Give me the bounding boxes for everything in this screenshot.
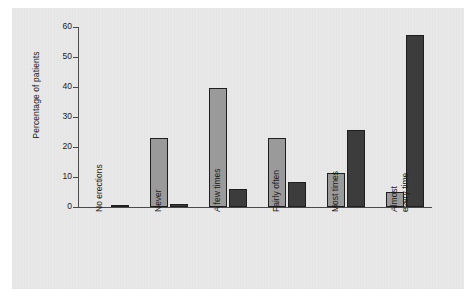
y-axis-tick bbox=[73, 147, 78, 148]
y-axis-tick-label-wrap: 10 bbox=[44, 177, 72, 178]
y-axis-line bbox=[78, 27, 79, 208]
bar-series-dark-1 bbox=[170, 204, 188, 207]
x-axis-label-0: No erections bbox=[95, 164, 105, 212]
x-axis-line bbox=[78, 207, 432, 208]
y-axis-tick bbox=[73, 87, 78, 88]
x-axis-label-5-line0: Almost bbox=[390, 186, 400, 212]
y-axis-tick-label: 40 bbox=[48, 82, 72, 91]
y-axis-tick-label: 10 bbox=[48, 172, 72, 181]
y-axis-title: Percentage of patients bbox=[31, 35, 41, 155]
y-axis-tick-label-wrap: 20 bbox=[44, 147, 72, 148]
y-axis-tick bbox=[73, 207, 78, 208]
y-axis-tick-label-wrap: 60 bbox=[44, 27, 72, 28]
x-axis-label-3: Fairly often bbox=[272, 170, 282, 212]
bar-series-dark-4 bbox=[347, 130, 365, 207]
y-axis-tick-label-wrap: 30 bbox=[44, 117, 72, 118]
y-axis-tick bbox=[73, 27, 78, 28]
bar-series-dark-2 bbox=[229, 189, 247, 207]
bar-series-dark-3 bbox=[288, 182, 306, 207]
y-axis-tick-label-wrap: 0 bbox=[44, 207, 72, 208]
y-axis-tick bbox=[73, 177, 78, 178]
y-axis-tick-label: 20 bbox=[48, 142, 72, 151]
y-axis-tick bbox=[73, 117, 78, 118]
y-axis-tick bbox=[73, 57, 78, 58]
y-axis-tick-label: 50 bbox=[48, 52, 72, 61]
x-axis-label-1: Never bbox=[154, 189, 164, 212]
x-axis-label-4: Most times bbox=[331, 171, 341, 212]
y-axis-tick-label: 30 bbox=[48, 112, 72, 121]
y-axis-tick-label: 0 bbox=[48, 202, 72, 211]
y-axis-tick-label: 60 bbox=[48, 22, 72, 31]
y-axis-tick-label-wrap: 50 bbox=[44, 57, 72, 58]
x-axis-label-2: A few times bbox=[213, 169, 223, 212]
x-axis-label-5-line1: every time bbox=[401, 173, 411, 212]
bar-series-dark-0 bbox=[111, 205, 129, 207]
bar-chart-plot: Percentage of patients 0102030405060 No … bbox=[0, 0, 476, 304]
y-axis-tick-label-wrap: 40 bbox=[44, 87, 72, 88]
figure-container: Percentage of patients 0102030405060 No … bbox=[0, 0, 476, 304]
